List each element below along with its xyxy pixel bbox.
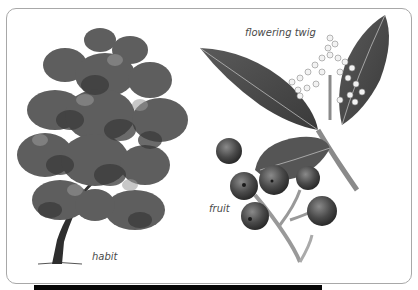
label-fruit: fruit [209,203,230,214]
botanical-illustration [0,0,418,290]
label-flowering-twig: flowering twig [245,27,316,38]
bottom-bar [34,285,322,290]
label-habit: habit [92,251,118,262]
fruit-cluster-illustration [216,137,337,262]
tree-illustration [17,28,188,264]
